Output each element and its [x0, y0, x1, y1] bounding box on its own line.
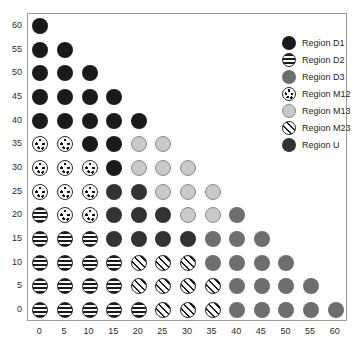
data-point-d2	[82, 302, 98, 318]
data-point-d2	[131, 302, 147, 318]
x-tick-label: 50	[280, 326, 290, 336]
data-point-m13	[155, 160, 171, 176]
y-tick-label: 30	[12, 162, 22, 172]
data-point-m12	[57, 184, 73, 200]
data-point-d2	[57, 255, 73, 271]
x-tick-label: 5	[61, 326, 66, 336]
data-point-d2	[57, 302, 73, 318]
data-point-u	[155, 207, 171, 223]
data-point-m12	[32, 136, 48, 152]
data-point-m13	[180, 160, 196, 176]
data-point-u	[131, 207, 147, 223]
data-point-m13	[131, 136, 147, 152]
data-point-m23	[180, 302, 196, 318]
data-point-m13	[131, 160, 147, 176]
y-tick-label: 55	[12, 44, 22, 54]
legend-item-m13[interactable]: Region M13	[282, 102, 357, 119]
y-tick-label: 35	[12, 138, 22, 148]
data-point-d2	[82, 255, 98, 271]
data-point-d3	[229, 207, 245, 223]
data-point-m12	[57, 160, 73, 176]
data-point-d3	[278, 255, 294, 271]
data-point-d1	[82, 89, 98, 105]
legend-item-label: Region D1	[302, 38, 345, 48]
legend-item-u[interactable]: Region U	[282, 136, 357, 153]
data-point-d1	[32, 113, 48, 129]
data-point-d1	[32, 65, 48, 81]
data-point-d2	[82, 231, 98, 247]
data-point-m12	[57, 136, 73, 152]
data-point-u	[131, 231, 147, 247]
legend-item-label: Region D2	[302, 55, 345, 65]
data-point-m23	[155, 278, 171, 294]
x-tick-label: 20	[133, 326, 143, 336]
data-point-m23	[155, 255, 171, 271]
legend-item-m12[interactable]: Region M12	[282, 85, 357, 102]
data-point-d3	[254, 278, 270, 294]
data-point-d1	[57, 89, 73, 105]
y-tick-label: 60	[12, 20, 22, 30]
data-point-u	[106, 207, 122, 223]
data-point-d2	[106, 302, 122, 318]
data-point-d1	[32, 42, 48, 58]
data-point-m23	[155, 302, 171, 318]
data-point-m23	[205, 278, 221, 294]
y-tick-label: 40	[12, 115, 22, 125]
plot-frame: Region D1Region D2Region D3Region M12Reg…	[27, 13, 347, 321]
x-tick-label: 25	[157, 326, 167, 336]
legend-swatch-u-icon	[282, 138, 296, 152]
data-point-m13	[180, 207, 196, 223]
data-point-m23	[205, 302, 221, 318]
legend-swatch-m23-icon	[282, 121, 296, 135]
x-tick-label: 10	[84, 326, 94, 336]
data-point-d1	[106, 113, 122, 129]
legend-swatch-m12-icon	[282, 87, 296, 101]
legend-item-label: Region M12	[302, 89, 351, 99]
y-axis-tick-labels: 051015202530354045505560	[0, 13, 22, 321]
data-point-d2	[57, 231, 73, 247]
x-tick-label: 60	[330, 326, 340, 336]
legend-item-label: Region D3	[302, 72, 345, 82]
data-point-d3	[254, 302, 270, 318]
x-tick-label: 35	[207, 326, 217, 336]
legend-swatch-m13-icon	[282, 104, 296, 118]
data-point-d2	[32, 207, 48, 223]
data-point-d3	[278, 302, 294, 318]
data-point-m12	[57, 207, 73, 223]
data-point-d3	[278, 278, 294, 294]
legend-item-d1[interactable]: Region D1	[282, 34, 357, 51]
data-point-m12	[82, 160, 98, 176]
y-tick-label: 5	[17, 280, 22, 290]
data-point-m13	[155, 184, 171, 200]
data-point-d3	[303, 278, 319, 294]
data-point-d1	[57, 65, 73, 81]
x-axis-tick-labels: 051015202530354045505560	[27, 326, 347, 342]
x-tick-label: 15	[108, 326, 118, 336]
legend-item-d3[interactable]: Region D3	[282, 68, 357, 85]
legend-item-label: Region M23	[302, 123, 351, 133]
legend-item-d2[interactable]: Region D2	[282, 51, 357, 68]
data-point-d1	[106, 160, 122, 176]
data-point-m23	[131, 255, 147, 271]
legend-swatch-d2-icon	[282, 53, 296, 67]
data-point-d2	[32, 278, 48, 294]
data-point-d1	[106, 136, 122, 152]
data-point-d3	[229, 231, 245, 247]
legend-swatch-d3-icon	[282, 70, 296, 84]
data-point-d1	[82, 65, 98, 81]
x-tick-label: 40	[231, 326, 241, 336]
data-point-d3	[229, 278, 245, 294]
data-point-d2	[106, 255, 122, 271]
data-point-d3	[205, 231, 221, 247]
legend-item-m23[interactable]: Region M23	[282, 119, 357, 136]
data-point-d2	[32, 302, 48, 318]
data-point-d1	[82, 113, 98, 129]
data-point-d3	[254, 255, 270, 271]
data-point-d3	[328, 302, 344, 318]
data-point-d1	[106, 89, 122, 105]
data-point-u	[106, 184, 122, 200]
data-point-u	[106, 231, 122, 247]
data-point-d2	[106, 278, 122, 294]
data-point-d1	[32, 18, 48, 34]
data-point-d3	[254, 231, 270, 247]
